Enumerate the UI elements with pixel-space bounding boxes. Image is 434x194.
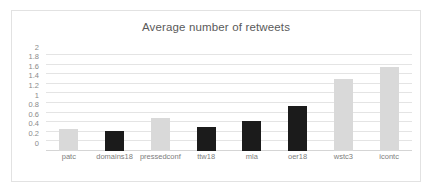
plot-area (46, 55, 412, 151)
y-axis-tick-label: 0.4 (29, 121, 39, 129)
bar-series (46, 55, 412, 151)
x-axis-label-mla: mla (229, 153, 275, 161)
y-axis-tick-label: 2 (35, 44, 39, 52)
y-axis-tick-label: 0 (35, 140, 39, 148)
bar-slot (366, 55, 412, 151)
x-axis-category-labels: patcdomains18pressedconfttw18mlaoer18wst… (46, 153, 412, 171)
x-axis-label-domains18: domains18 (92, 153, 138, 161)
y-axis-tick-label: 1.4 (29, 73, 39, 81)
x-axis-label-icontc: icontc (366, 153, 412, 161)
bar-slot (183, 55, 229, 151)
x-axis-label-wstc3: wstc3 (321, 153, 367, 161)
bar-slot (46, 55, 92, 151)
x-axis-label-pressedconf: pressedconf (138, 153, 184, 161)
bar-slot (138, 55, 184, 151)
bar-slot (229, 55, 275, 151)
bar-slot (275, 55, 321, 151)
y-axis-tick-label: 0.8 (29, 101, 39, 109)
y-axis-tick-label: 1.8 (29, 53, 39, 61)
y-axis-tick-label: 1.6 (29, 63, 39, 71)
y-axis-tick-label: 0.6 (29, 111, 39, 119)
x-axis-label-ttw18: ttw18 (183, 153, 229, 161)
y-axis-tick-labels: 00.20.40.60.811.21.41.61.82 (12, 55, 43, 151)
bar-pressedconf[interactable] (151, 118, 170, 151)
bar-ttw18[interactable] (197, 127, 216, 151)
y-axis-tick-label: 1 (35, 92, 39, 100)
chart-container: Average number of retweets 00.20.40.60.8… (11, 10, 421, 182)
bar-slot (321, 55, 367, 151)
x-axis-label-patc: patc (46, 153, 92, 161)
bar-oer18[interactable] (288, 106, 307, 151)
chart-title: Average number of retweets (12, 21, 420, 33)
bar-wstc3[interactable] (334, 79, 353, 151)
bar-domains18[interactable] (105, 131, 124, 151)
bar-slot (92, 55, 138, 151)
y-axis-tick-label: 0.2 (29, 130, 39, 138)
x-axis-label-oer18: oer18 (275, 153, 321, 161)
bar-patc[interactable] (59, 129, 78, 151)
bar-icontc[interactable] (380, 67, 399, 151)
y-axis-tick-label: 1.2 (29, 82, 39, 90)
bar-mla[interactable] (242, 121, 261, 151)
